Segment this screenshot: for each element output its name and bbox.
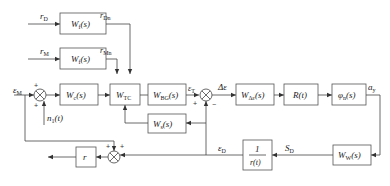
svg-text:Δε: Δε bbox=[217, 82, 227, 92]
label-rD: rD bbox=[40, 11, 49, 22]
block-R: R(t) bbox=[284, 84, 318, 105]
svg-text:−: − bbox=[212, 101, 216, 108]
block-WW: WW(s) bbox=[333, 145, 371, 165]
signal-delta-eps: Δε bbox=[212, 82, 236, 95]
svg-text:+: + bbox=[34, 82, 38, 89]
block-WDe: WΔε(s) bbox=[236, 84, 274, 105]
svg-text:n1(t): n1(t) bbox=[47, 113, 63, 124]
signal-epsD: εD bbox=[120, 143, 243, 155]
svg-text:r(t): r(t) bbox=[250, 158, 261, 167]
block-Ws: Ws(s) bbox=[148, 114, 186, 133]
svg-text:Wc(s): Wc(s) bbox=[66, 90, 86, 101]
svg-text:εM: εM bbox=[13, 85, 23, 96]
svg-text:ay: ay bbox=[368, 82, 376, 93]
block-Wc: Wc(s) bbox=[60, 84, 98, 105]
block-WBG: WBG(s) bbox=[148, 84, 186, 105]
sum-junction-3: + + bbox=[106, 143, 124, 163]
svg-text:+: + bbox=[106, 143, 110, 150]
block-inv-r: 1 r(t) bbox=[243, 140, 272, 170]
block-diagram: rD Wf(s) rDn rM Wf(s) rMn εM + + n1(t) bbox=[0, 0, 390, 186]
svg-text:εD: εD bbox=[218, 143, 227, 154]
svg-text:rDn: rDn bbox=[100, 11, 110, 21]
svg-text:φn(s): φn(s) bbox=[338, 90, 355, 101]
block-r: r bbox=[76, 147, 96, 167]
signal-epsT: εT bbox=[186, 84, 199, 95]
signal-SD: SD bbox=[272, 143, 333, 155]
svg-text:rMn: rMn bbox=[100, 46, 111, 56]
svg-text:SD: SD bbox=[285, 143, 295, 154]
input-epsM: εM bbox=[13, 85, 34, 96]
svg-text:εT: εT bbox=[188, 84, 195, 94]
block-WTC: WTC bbox=[110, 84, 140, 105]
svg-text:Wf(s): Wf(s) bbox=[71, 54, 90, 65]
svg-text:+: + bbox=[120, 143, 124, 150]
svg-text:1: 1 bbox=[255, 144, 260, 154]
svg-text:rM: rM bbox=[40, 46, 50, 57]
svg-text:+: + bbox=[193, 100, 197, 107]
svg-text:Wf(s): Wf(s) bbox=[71, 19, 90, 30]
svg-text:r: r bbox=[83, 152, 87, 162]
input-rD: rD bbox=[28, 11, 60, 24]
svg-text:R(t): R(t) bbox=[292, 90, 307, 100]
svg-text:Ws(s): Ws(s) bbox=[153, 119, 172, 130]
output-ay: ay bbox=[366, 82, 380, 155]
svg-text:+: + bbox=[34, 102, 38, 109]
input-rM: rM bbox=[28, 46, 60, 59]
sum-junction-2: + − bbox=[193, 89, 216, 108]
block-phi: φn(s) bbox=[332, 84, 366, 105]
